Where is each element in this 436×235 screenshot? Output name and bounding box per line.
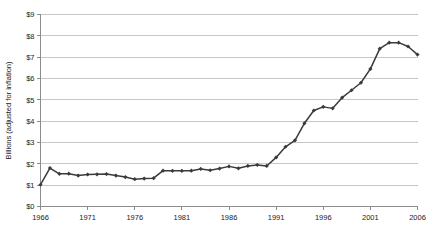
data-point-1981	[180, 169, 184, 173]
data-point-1989	[255, 163, 259, 167]
x-tick-label-2001: 2001	[362, 213, 379, 222]
data-point-1982	[189, 169, 193, 173]
y-axis-ticks	[37, 15, 41, 207]
data-point-1971	[86, 172, 90, 176]
y-tick-label-7: $7	[26, 53, 34, 62]
series-markers	[38, 41, 419, 187]
data-point-2004	[397, 41, 401, 45]
x-tick-label-1986: 1986	[221, 213, 238, 222]
y-axis-tick-labels: $0$1$2$3$4$5$6$7$8$9	[26, 10, 34, 211]
data-point-1988	[246, 164, 250, 168]
y-tick-label-3: $3	[26, 138, 34, 147]
line-chart: $0$1$2$3$4$5$6$7$8$9 1966197119761981198…	[0, 0, 436, 235]
y-tick-label-5: $5	[26, 96, 34, 105]
data-point-1970	[76, 173, 80, 177]
data-point-1987	[236, 166, 240, 170]
data-point-1972	[95, 172, 99, 176]
data-point-1976	[133, 177, 137, 181]
y-axis-title: Billions (adjusted for inflation)	[4, 61, 13, 159]
y-tick-label-1: $1	[26, 181, 34, 190]
x-tick-label-1981: 1981	[174, 213, 191, 222]
x-tick-label-1976: 1976	[126, 213, 143, 222]
x-tick-label-2006: 2006	[409, 213, 426, 222]
y-tick-label-0: $0	[26, 202, 34, 211]
x-tick-label-1966: 1966	[32, 213, 49, 222]
series-line-billions	[41, 43, 418, 185]
data-point-1975	[123, 175, 127, 179]
gridlines	[41, 15, 418, 186]
y-tick-label-2: $2	[26, 160, 34, 169]
data-point-1973	[104, 172, 108, 176]
y-tick-label-8: $8	[26, 32, 34, 41]
data-point-1977	[142, 176, 146, 180]
x-axis-tick-labels: 196619711976198119861991199620012006	[32, 213, 426, 222]
data-point-1985	[217, 166, 221, 170]
x-tick-label-1971: 1971	[79, 213, 96, 222]
x-tick-label-1991: 1991	[268, 213, 285, 222]
y-tick-label-6: $6	[26, 74, 34, 83]
data-point-1974	[114, 173, 118, 177]
x-axis-ticks	[41, 207, 418, 211]
data-point-1986	[227, 164, 231, 168]
data-point-1996	[321, 105, 325, 109]
data-point-1980	[170, 169, 174, 173]
y-tick-label-4: $4	[26, 117, 34, 126]
data-point-1969	[67, 172, 71, 176]
data-point-1983	[199, 167, 203, 171]
data-point-1984	[208, 168, 212, 172]
x-tick-label-1996: 1996	[315, 213, 332, 222]
chart-figure: $0$1$2$3$4$5$6$7$8$9 1966197119761981198…	[0, 0, 436, 235]
y-tick-label-9: $9	[26, 10, 34, 19]
